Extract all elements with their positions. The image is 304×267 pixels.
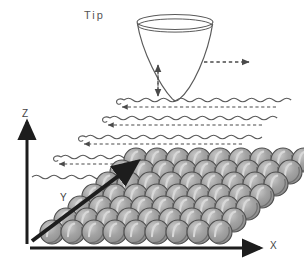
scan-trace-3-hook <box>79 136 86 141</box>
scan-trace-1 <box>124 98 291 102</box>
scan-trace-2-hook <box>103 117 110 122</box>
x-axis-label: X <box>270 240 278 251</box>
tip-rim-inner-ellipse <box>138 19 212 32</box>
atom-sphere <box>166 220 190 244</box>
atom-sphere <box>208 220 232 244</box>
stm-diagram-figure: Tip Z Y X <box>0 0 304 267</box>
atom-sphere <box>124 220 148 244</box>
probe-tip-group <box>137 15 213 101</box>
scan-trace-1-hook <box>117 99 124 104</box>
scan-trace-2 <box>110 116 277 120</box>
tip-cone-left-edge <box>137 23 172 99</box>
atom-lattice-group <box>40 148 304 244</box>
diagram-canvas <box>0 0 304 267</box>
atom-sphere <box>103 220 127 244</box>
atom-sphere <box>61 220 85 244</box>
atom-sphere <box>82 220 106 244</box>
tip-rim-outer-ellipse <box>137 15 213 30</box>
z-axis-label: Z <box>22 108 29 119</box>
scan-trace-3 <box>86 135 262 139</box>
y-axis-label: Y <box>60 192 68 203</box>
tip-cone-right-edge <box>179 24 213 99</box>
tip-label: Tip <box>84 9 105 21</box>
atom-sphere <box>187 220 211 244</box>
scan-trace-4-hook <box>54 156 61 161</box>
atom-sphere <box>145 220 169 244</box>
atom-row <box>40 220 232 244</box>
